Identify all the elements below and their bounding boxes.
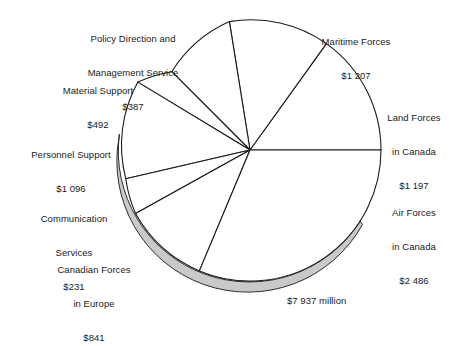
label-maritime-value: $1 207 xyxy=(300,70,412,81)
label-total: $7 937 million xyxy=(287,272,427,329)
label-communication-line1: Communication xyxy=(20,213,128,224)
label-material-line1: Material Support xyxy=(38,85,158,96)
label-canadian-forces-in-europe: Canadian Forces in Europe $841 xyxy=(38,241,150,346)
label-europe-line1: Canadian Forces xyxy=(38,264,150,275)
label-europe-value: $841 xyxy=(38,332,150,343)
label-maritime-line1: Maritime Forces xyxy=(300,36,412,47)
label-policy-line1: Policy Direction and xyxy=(58,33,208,44)
label-total-value: $7 937 million xyxy=(287,295,427,306)
label-europe-line2: in Europe xyxy=(38,298,150,309)
label-air-line1: Air Forces xyxy=(372,207,456,218)
label-personnel-line1: Personnel Support xyxy=(9,149,133,160)
label-air-line2: in Canada xyxy=(372,241,456,252)
label-land-line1: Land Forces xyxy=(372,112,456,123)
label-land-line2: in Canada xyxy=(372,146,456,157)
